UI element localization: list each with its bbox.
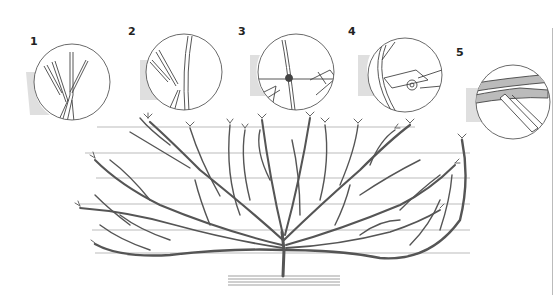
diagram-artwork — [0, 0, 555, 295]
fan-trained-tree-diagram: 1 2 3 4 5 — [0, 0, 555, 295]
step-1-detail — [26, 44, 110, 122]
step-2-detail — [140, 34, 222, 112]
page-edge-rule — [552, 28, 553, 295]
step-3-detail — [250, 34, 336, 110]
fan-trained-tree — [75, 112, 466, 276]
step-4-detail — [358, 38, 442, 112]
ground-hatching — [228, 276, 340, 285]
step-5-detail — [466, 65, 552, 139]
